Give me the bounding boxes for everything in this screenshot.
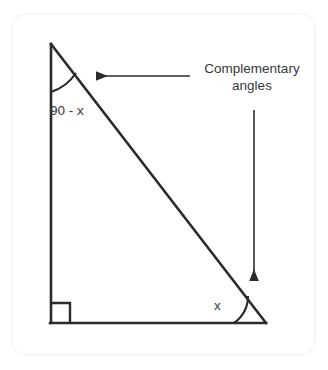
base-angle-arc <box>234 296 248 323</box>
apex-angle-arc <box>51 73 76 92</box>
base-angle-label: x <box>214 298 221 315</box>
callout-line-1: Complementary <box>204 61 299 76</box>
triangle-diagram <box>0 0 328 370</box>
callout-line-2: angles <box>196 78 308 95</box>
right-angle-marker <box>51 303 70 323</box>
figure-canvas: 90 - x x Complementaryangles <box>0 0 328 370</box>
complementary-angles-callout: Complementaryangles <box>196 61 308 95</box>
apex-angle-label: 90 - x <box>50 103 84 120</box>
